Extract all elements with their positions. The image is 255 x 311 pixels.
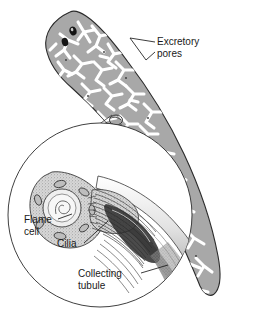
leader-excretory-pores bbox=[130, 38, 155, 60]
figure-container: Excretory pores Flame cell Cilia Collect… bbox=[0, 0, 255, 311]
label-flame-cell: Flame bbox=[24, 214, 52, 225]
label-flame-cell-line2: cell bbox=[24, 226, 39, 237]
label-collecting-tubule: Collecting bbox=[78, 268, 122, 279]
label-cilia: Cilia bbox=[57, 238, 77, 249]
label-excretory-pores-line2: pores bbox=[157, 48, 182, 59]
label-collecting-tubule-line2: tubule bbox=[78, 280, 106, 291]
label-excretory-pores: Excretory bbox=[157, 36, 199, 47]
diagram-svg: Excretory pores Flame cell Cilia Collect… bbox=[0, 0, 255, 311]
